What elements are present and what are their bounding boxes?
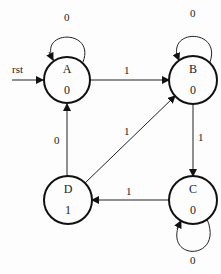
transition-c-c: 0: [177, 219, 210, 266]
transition-label: 0: [190, 7, 196, 19]
state-diagram: rst 0 1 0 1 0 1 0 1: [0, 0, 221, 274]
transition-label: 1: [124, 64, 130, 76]
transition-label: 1: [126, 185, 132, 197]
transition-label: 1: [198, 131, 204, 143]
state-a: A 0: [44, 57, 90, 103]
state-name: A: [63, 62, 72, 76]
transition-label: 1: [124, 125, 130, 137]
transition-label: 0: [54, 134, 60, 146]
state-output: 0: [190, 83, 196, 97]
state-name: C: [189, 182, 197, 196]
transition-b-c: 1: [193, 104, 204, 176]
transition-d-b: 1: [84, 96, 175, 184]
transition-c-d: 1: [92, 185, 170, 200]
reset-arrow: rst: [12, 63, 43, 80]
state-b: B 0: [169, 56, 217, 104]
reset-label: rst: [12, 63, 23, 75]
state-output: 0: [190, 203, 196, 217]
transition-label: 0: [190, 254, 196, 266]
transition-b-b: 0: [176, 7, 212, 62]
transition-a-b: 1: [90, 64, 169, 80]
state-name: B: [189, 62, 197, 76]
transition-d-a: 0: [54, 104, 67, 177]
state-name: D: [64, 182, 73, 196]
transition-label: 0: [64, 11, 70, 23]
state-c: C 0: [169, 176, 217, 224]
state-output: 1: [65, 203, 71, 217]
transition-a-a: 0: [49, 11, 85, 62]
state-d: D 1: [44, 176, 92, 224]
state-output: 0: [64, 83, 70, 97]
